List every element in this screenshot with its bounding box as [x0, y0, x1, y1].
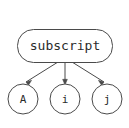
edge-line-j — [72, 62, 104, 82]
edge-subscript-to-i — [63, 62, 68, 85]
edge-subscript-to-a — [26, 62, 58, 85]
syntax-tree-diagram: subscript A i j — [0, 0, 129, 128]
leaf-j-label: j — [104, 93, 111, 106]
node-root-subscript[interactable]: subscript — [18, 30, 113, 63]
leaf-i-label: i — [62, 93, 69, 106]
node-leaf-i[interactable]: i — [50, 84, 80, 114]
root-node-label: subscript — [30, 38, 100, 53]
node-leaf-a[interactable]: A — [8, 84, 38, 114]
edge-line-a — [26, 62, 58, 82]
graph-canvas: subscript A i j — [0, 0, 129, 128]
leaf-a-label: A — [20, 93, 27, 106]
node-leaf-j[interactable]: j — [92, 84, 122, 114]
edge-subscript-to-j — [72, 62, 104, 85]
